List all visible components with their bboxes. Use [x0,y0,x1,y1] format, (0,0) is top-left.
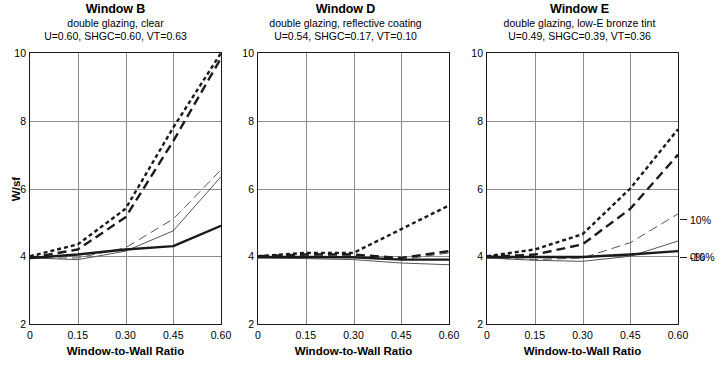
y-tick-label: 8 [248,115,254,127]
x-tick-label: 0.45 [391,329,411,341]
panel-subtitle-properties: U=0.54, SHGC=0.17, VT=0.10 [231,30,460,43]
x-tick-label: 0.30 [343,329,363,341]
y-tick-label: 2 [20,318,26,330]
panel-subtitle-properties: U=0.49, SHGC=0.39, VT=0.36 [460,30,699,43]
panel-subtitle-description: double glazing, low-E bronze tint [460,17,699,30]
panel-header: Window B double glazing, clear U=0.60, S… [0,2,231,43]
x-axis-title: Window-to-Wall Ratio [487,345,678,357]
data-series-line [30,58,221,258]
panel-window-b: Window B double glazing, clear U=0.60, S… [0,0,231,372]
legend-dash-icon [680,219,687,220]
panel-subtitle-description: double glazing, reflective coating [231,17,460,30]
legend-label: 10% [690,214,711,226]
x-tick-label: 0 [484,329,490,341]
legend: 10%0%-10% [678,53,719,324]
series-layer [258,53,449,324]
plot-area: Window-to-Wall Ratio 10864200.150.300.45… [257,52,450,325]
x-tick-label: 0.15 [296,329,316,341]
panel-header: Window D double glazing, reflective coat… [231,2,460,43]
y-tick-label: 8 [477,115,483,127]
x-axis-title: Window-to-Wall Ratio [258,345,449,357]
x-tick-label: 0.15 [525,329,545,341]
panel-title: Window E [460,2,699,17]
y-tick-label: 4 [248,250,254,262]
y-tick-label: 4 [477,250,483,262]
panel-title: Window D [231,2,460,17]
series-layer [30,53,221,324]
y-tick-label: 10 [471,47,483,59]
y-tick-label: 6 [477,183,483,195]
y-tick-label: 10 [242,47,254,59]
x-tick-label: 0 [255,329,261,341]
y-tick-label: 6 [20,183,26,195]
x-tick-label: 0.60 [668,329,688,341]
legend-dash-icon [680,257,687,258]
data-series-line [487,155,678,257]
legend-item: -10% [680,251,715,263]
x-tick-label: 0 [27,329,33,341]
plot-area: Window-to-Wall Ratio 10%0%-10% 10864200.… [486,52,679,325]
x-axis-title: Window-to-Wall Ratio [30,345,221,357]
y-tick-label: 8 [20,115,26,127]
x-tick-label: 0.15 [68,329,88,341]
x-tick-label: 0.45 [163,329,183,341]
x-tick-label: 0.30 [572,329,592,341]
panel-window-e: Window E double glazing, low-E bronze ti… [460,0,699,372]
data-series-line [258,205,449,256]
panel-window-d: Window D double glazing, reflective coat… [231,0,460,372]
y-tick-label: 2 [477,318,483,330]
panel-title: Window B [0,2,231,17]
panel-header: Window E double glazing, low-E bronze ti… [460,2,699,43]
panel-subtitle-properties: U=0.60, SHGC=0.60, VT=0.63 [0,30,231,43]
legend-item: 10% [680,214,711,226]
y-tick-label: 2 [248,318,254,330]
data-series-line [30,170,221,258]
x-tick-label: 0.30 [115,329,135,341]
y-tick-label: 4 [20,250,26,262]
panel-subtitle-description: double glazing, clear [0,17,231,30]
data-series-line [487,129,678,256]
plot-area: W/sf Window-to-Wall Ratio 10864200.150.3… [29,52,222,325]
y-tick-label: 10 [14,47,26,59]
x-tick-label: 0.60 [439,329,459,341]
x-tick-label: 0.60 [211,329,231,341]
legend-label: -10% [690,251,715,263]
x-tick-label: 0.45 [620,329,640,341]
series-layer [487,53,678,324]
data-series-line [30,53,221,256]
y-tick-label: 6 [248,183,254,195]
